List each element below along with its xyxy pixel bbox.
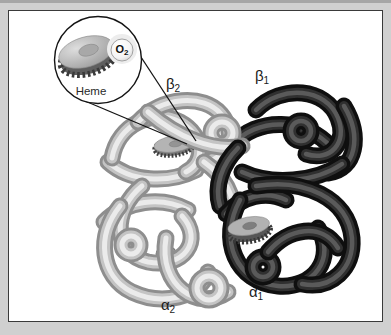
o2-label: O2 xyxy=(115,44,128,57)
hemoglobin-diagram xyxy=(0,0,391,335)
protein-tubes xyxy=(104,93,354,300)
beta2-label: β2 xyxy=(166,76,180,94)
beta1-label: β1 xyxy=(255,68,269,86)
figure-canvas: O2 Heme β2 β1 α2 α1 xyxy=(0,0,391,335)
alpha2-label: α2 xyxy=(161,297,175,315)
heme-label: Heme xyxy=(76,86,107,98)
alpha1-label: α1 xyxy=(249,284,263,302)
